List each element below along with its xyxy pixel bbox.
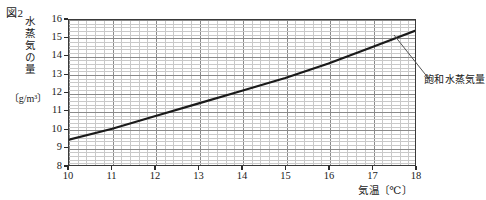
y-axis-tick	[64, 74, 68, 75]
y-axis-tick-label: 16	[22, 14, 62, 24]
y-axis-tick-label: 9	[22, 142, 62, 152]
y-axis-tick	[64, 147, 68, 148]
saturation-curve	[69, 20, 415, 165]
x-axis-tick-label: 15	[271, 170, 301, 181]
y-axis-tick-label: 12	[22, 87, 62, 97]
y-axis-tick	[64, 92, 68, 93]
y-axis-tick	[64, 110, 68, 111]
y-axis-tick-label: 13	[22, 69, 62, 79]
y-axis-title-text: 水蒸気の量	[23, 16, 35, 76]
y-axis-tick-label: 15	[22, 32, 62, 42]
y-axis-tick	[64, 129, 68, 130]
x-axis-tick-label: 10	[53, 170, 83, 181]
x-axis-tick-label: 14	[227, 170, 257, 181]
series-line	[69, 31, 415, 140]
x-axis-tick-label: 17	[358, 170, 388, 181]
x-axis-tick-label: 16	[314, 170, 344, 181]
y-axis-tick	[64, 18, 68, 19]
curve-annotation-label: 飽和水蒸気量	[424, 71, 486, 86]
x-axis-tick-label: 13	[184, 170, 214, 181]
y-axis-tick	[64, 37, 68, 38]
plot-area	[68, 19, 416, 166]
y-axis-tick	[64, 55, 68, 56]
y-axis-tick-label: 14	[22, 50, 62, 60]
y-axis-tick-label: 8	[22, 161, 62, 171]
y-axis-tick-label: 11	[22, 105, 62, 115]
x-axis-tick-label: 12	[140, 170, 170, 181]
y-axis-tick-label: 10	[22, 124, 62, 134]
x-axis-title: 気温〔℃〕	[358, 182, 412, 197]
x-axis-tick-label: 11	[97, 170, 127, 181]
x-axis-tick-label: 18	[401, 170, 431, 181]
